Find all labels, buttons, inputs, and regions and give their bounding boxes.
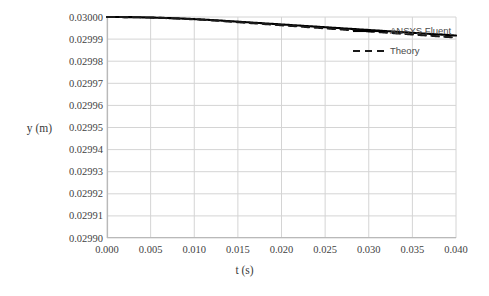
x-tick-label: 0.040 xyxy=(426,244,486,256)
dashed-line-icon xyxy=(352,45,386,57)
solid-line-icon xyxy=(352,25,386,37)
line-chart: y (m) 0.030000.029990.029980.029970.0299… xyxy=(0,0,489,296)
legend-label-theory: Theory xyxy=(386,45,420,56)
legend-item-theory: Theory xyxy=(352,42,472,59)
legend: ANSYS Fluent Theory xyxy=(352,22,472,62)
legend-label-ansys-fluent: ANSYS Fluent xyxy=(386,25,451,36)
legend-item-ansys-fluent: ANSYS Fluent xyxy=(352,22,472,39)
x-axis-title: t (s) xyxy=(0,264,489,277)
